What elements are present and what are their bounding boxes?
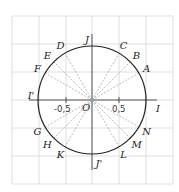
point-label-G: G (33, 126, 41, 137)
tick-label-pos: 0,5 (112, 104, 126, 114)
tick-label-neg: -0,5 (54, 104, 71, 114)
point-label-J: J (83, 34, 90, 45)
point-label-E: E (43, 50, 52, 61)
origin-dot (90, 98, 94, 102)
point-label-F: F (33, 63, 42, 74)
unit-circle-diagram: ABCDEFGHKLMNIJI'J' -0,5 0,5 O (0, 0, 179, 192)
point-label-Jprime: J' (94, 158, 103, 169)
point-label-N: N (141, 126, 152, 137)
point-label-M: M (130, 139, 142, 150)
point-label-H: H (42, 139, 52, 150)
point-label-I: I (155, 103, 161, 114)
point-label-D: D (55, 40, 64, 51)
point-label-L: L (119, 149, 127, 160)
point-label-Iprime: I' (27, 90, 35, 101)
point-label-B: B (132, 50, 140, 61)
origin-label: O (82, 102, 90, 113)
point-labels: ABCDEFGHKLMNIJI'J' (27, 34, 161, 169)
radius-to-E (54, 62, 92, 100)
point-label-K: K (56, 149, 65, 160)
point-label-C: C (120, 40, 128, 51)
point-label-A: A (142, 63, 150, 74)
radius-to-B (92, 62, 130, 100)
